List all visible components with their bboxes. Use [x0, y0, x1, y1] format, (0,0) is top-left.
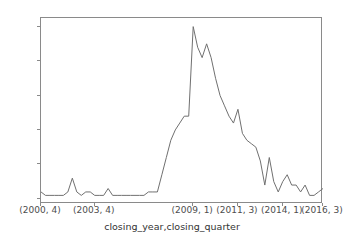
x-tick-label: (2003, 4) [73, 206, 114, 215]
chart-figure: 01020304050 (2000, 4)(2003, 4)(2009, 1)(… [0, 0, 344, 245]
x-tick-label: (2016, 3) [301, 206, 342, 215]
x-tick-label: (2000, 4) [19, 206, 60, 215]
line-series-svg [41, 18, 323, 204]
x-tick-label: (2011, 3) [216, 206, 257, 215]
x-axis-label: closing_year,closing_quarter [0, 222, 344, 232]
plot-area [40, 17, 322, 203]
x-tick-label: (2014, 1) [261, 206, 302, 215]
data-line [41, 27, 323, 196]
x-tick-label: (2009, 1) [172, 206, 213, 215]
